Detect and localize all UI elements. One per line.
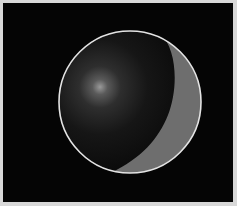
sphere-scene <box>0 0 237 206</box>
image-frame <box>0 0 237 206</box>
